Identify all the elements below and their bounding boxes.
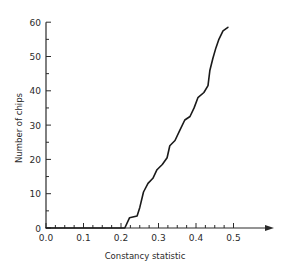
x-tick-label: 0.2 [114,233,128,243]
y-tick-label: 0 [35,224,41,234]
y-tick-label: 20 [30,155,42,165]
chart: 0102030405060 0.00.10.20.30.40.5 Constan… [0,0,284,277]
y-axis: 0102030405060 [30,18,51,234]
x-axis-title: Constancy statistic [105,251,186,261]
x-tick-label: 0.1 [76,233,90,243]
x-axis: 0.00.10.20.30.40.5 [39,223,274,243]
y-tick-label: 40 [30,86,42,96]
x-tick-label: 0.4 [189,233,204,243]
y-tick-label: 60 [30,18,42,28]
y-tick-label: 10 [30,189,42,199]
y-axis-title: Number of chips [14,92,24,163]
y-tick-label: 50 [30,52,42,62]
series-line [46,27,228,228]
x-axis-arrowhead [265,225,274,231]
x-tick-label: 0.0 [39,233,54,243]
series-group [46,27,228,228]
x-tick-label: 0.3 [151,233,165,243]
y-tick-label: 30 [30,121,42,131]
x-tick-label: 0.5 [226,233,240,243]
